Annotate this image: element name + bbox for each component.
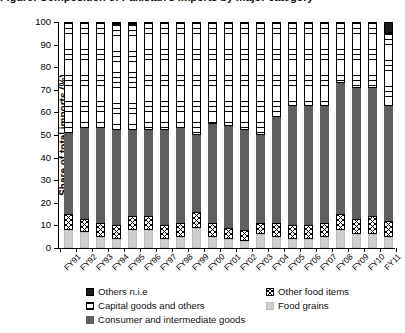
bar-segment [112, 22, 121, 24]
bar-FY01 [224, 22, 233, 248]
x-tick-label: FY97 [159, 253, 179, 273]
y-tick-label: 10 [21, 220, 51, 230]
bar-segment [320, 237, 329, 248]
bar-segment [224, 126, 233, 228]
legend-label: Capital goods and others [98, 300, 205, 311]
x-tick-mark [188, 248, 189, 252]
bar-FY98 [176, 22, 185, 248]
x-tick-label: FY91 [63, 253, 83, 273]
x-tick-mark [300, 248, 301, 252]
chart-legend: Others n.i.eOther food itemsCapital good… [86, 286, 396, 328]
y-tick-mark [54, 45, 58, 46]
bar-FY91 [64, 22, 73, 248]
bar-FY94 [112, 22, 121, 248]
y-tick-label: 90 [21, 40, 51, 50]
x-tick-mark [204, 248, 205, 252]
bar-segment [272, 237, 281, 248]
x-tick-label: FY09 [351, 253, 371, 273]
y-tick-label: 30 [21, 175, 51, 185]
x-tick-mark [76, 248, 77, 252]
bar-segment [144, 230, 153, 248]
bar-segment [96, 22, 105, 128]
y-tick-label: 100 [21, 17, 51, 27]
legend-swatch-others [86, 288, 94, 296]
bar-segment [144, 130, 153, 216]
x-tick-label: FY99 [191, 253, 211, 273]
bar-segment [80, 22, 89, 128]
bar-FY97 [160, 22, 169, 248]
x-tick-mark [364, 248, 365, 252]
bar-segment [192, 135, 201, 212]
bar-segment [336, 214, 345, 230]
y-tick-label: 20 [21, 198, 51, 208]
x-tick-label: FY92 [79, 253, 99, 273]
y-tick-label: 60 [21, 107, 51, 117]
x-tick-label: FY02 [239, 253, 259, 273]
x-tick-label: FY00 [207, 253, 227, 273]
bar-segment [240, 130, 249, 229]
bar-segment [208, 237, 217, 248]
x-tick-mark [380, 248, 381, 252]
bar-FY04 [272, 22, 281, 248]
bar-segment [176, 237, 185, 248]
bar-segment [160, 225, 169, 239]
bar-segment [224, 22, 233, 126]
bar-segment [368, 234, 377, 248]
y-tick-mark [54, 112, 58, 113]
bar-segment [368, 22, 377, 88]
x-tick-label: FY05 [287, 253, 307, 273]
y-tick-mark [54, 135, 58, 136]
bar-segment [368, 88, 377, 217]
bar-segment [256, 223, 265, 234]
bar-segment [304, 22, 313, 106]
bar-group [59, 22, 395, 248]
legend-item: Other food items [266, 286, 349, 297]
legend-swatch-consumer [86, 316, 94, 324]
x-tick-label: FY03 [255, 253, 275, 273]
bar-segment [304, 106, 313, 226]
bar-segment [288, 239, 297, 248]
legend-item: Consumer and intermediate goods [86, 314, 245, 325]
bar-segment [64, 133, 73, 214]
bar-segment [112, 130, 121, 225]
legend-item: Others n.i.e [86, 286, 148, 297]
x-tick-label: FY96 [143, 253, 163, 273]
bar-segment [208, 22, 217, 124]
x-tick-mark [124, 248, 125, 252]
legend-item: Capital goods and others [86, 300, 205, 311]
x-tick-label: FY10 [367, 253, 387, 273]
y-tick-label: 0 [21, 243, 51, 253]
bar-segment [80, 128, 89, 218]
y-tick-mark [54, 248, 58, 249]
y-tick-mark [54, 158, 58, 159]
plot-area: Share of total imports (%) 0102030405060… [59, 22, 395, 248]
bar-segment [112, 239, 121, 248]
bar-segment [288, 22, 297, 106]
bar-segment [352, 219, 361, 235]
bar-segment [336, 230, 345, 248]
y-tick-mark [54, 180, 58, 181]
bar-segment [272, 223, 281, 237]
y-tick-label: 40 [21, 153, 51, 163]
x-tick-label: FY07 [319, 253, 339, 273]
bar-segment [256, 234, 265, 248]
bar-segment [224, 228, 233, 239]
x-tick-label: FY95 [127, 253, 147, 273]
bar-segment [128, 230, 137, 248]
bar-FY06 [304, 22, 313, 248]
bar-segment [64, 230, 73, 248]
bar-segment [160, 22, 169, 130]
y-tick-mark [54, 203, 58, 204]
bar-FY95 [128, 22, 137, 248]
x-tick-label: FY04 [271, 253, 291, 273]
bar-segment [208, 124, 217, 223]
x-tick-mark [252, 248, 253, 252]
bar-segment [64, 22, 73, 133]
x-tick-label: FY94 [111, 253, 131, 273]
bar-segment [256, 22, 265, 135]
bar-segment [384, 237, 393, 248]
x-tick-mark [236, 248, 237, 252]
x-tick-label: FY93 [95, 253, 115, 273]
bar-segment [128, 216, 137, 230]
bar-segment [128, 130, 137, 216]
